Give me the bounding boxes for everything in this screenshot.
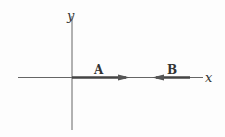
vector-diagram: y x A B — [0, 0, 225, 137]
vector-b-label: B — [167, 63, 177, 77]
y-axis-label: y — [66, 8, 75, 23]
x-axis-label: x — [205, 70, 213, 85]
vector-a-label: A — [93, 63, 104, 77]
